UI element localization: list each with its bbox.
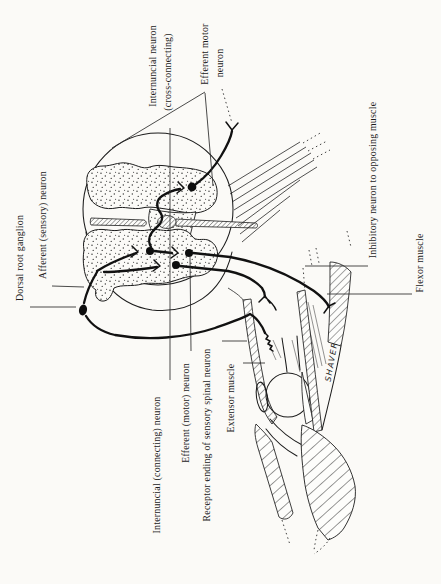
label-shaver-handwritten: SHAVER — [324, 341, 340, 383]
leader-efferent-motor-dotted — [222, 89, 232, 123]
commissure-bar-left — [90, 218, 146, 226]
internuncial-soma — [146, 247, 154, 255]
label-efferent-motor-bottom: Efferent (motor) neuron — [180, 363, 192, 463]
label-efferent-motor-top-line2: neuron — [214, 49, 225, 78]
labels: Dorsal root ganglion Afferent (sensory) … — [14, 23, 425, 534]
reflex-arc-figure: Dorsal root ganglion Afferent (sensory) … — [0, 0, 441, 584]
tibia-edge-1 — [270, 419, 304, 446]
label-afferent-sensory-neuron: Afferent (sensory) neuron — [37, 171, 49, 279]
dorsal-root-ganglion-soma — [78, 304, 88, 317]
label-internuncial-cross-line2: (cross-connecting) — [162, 33, 174, 110]
receptor-ending-squiggle — [265, 333, 273, 351]
spinal-nerve-fan — [228, 132, 351, 247]
label-inhibitory-neuron: Inhibitory neuron to opposing muscle — [367, 101, 378, 258]
inhibitory-neuron-soma — [185, 249, 193, 257]
calf-muscle-mass — [301, 425, 355, 540]
front-skin-strip — [243, 299, 277, 424]
label-internuncial-connecting: Internuncial (connecting) neuron — [151, 397, 163, 534]
gray-matter-dorsal-band — [87, 163, 217, 213]
label-flexor-muscle: Flexor muscle — [414, 233, 425, 292]
label-internuncial-cross-line1: Internuncial neuron — [147, 25, 158, 107]
gray-matter-ventral-band — [83, 229, 217, 301]
axon-terminal-fork-top — [226, 122, 238, 130]
label-extensor-muscle: Extensor muscle — [225, 363, 236, 432]
afferent-neuron-fiber — [86, 314, 265, 338]
label-receptor-ending: Receptor ending of sensory spinal neuron — [201, 349, 212, 522]
leader-afferent-neuron — [52, 286, 84, 287]
label-dorsal-root-ganglion: Dorsal root ganglion — [14, 215, 25, 301]
femur-edge-1 — [282, 338, 287, 372]
axon-terminal-fork-extensor — [259, 296, 276, 310]
label-efferent-motor-top-line1: Efferent motor — [199, 23, 210, 85]
figure-canvas: Dorsal root ganglion Afferent (sensory) … — [0, 0, 441, 584]
thigh-front-outline — [228, 288, 245, 303]
efferent-extensor-soma — [172, 261, 180, 269]
leader-internuncial-cross — [112, 92, 205, 148]
leg-drawing — [228, 262, 355, 554]
thigh-outline-dotted — [347, 231, 351, 247]
